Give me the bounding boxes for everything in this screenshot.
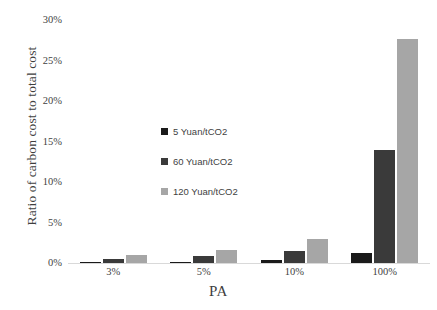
x-axis-tick-10: 10% — [249, 266, 340, 278]
legend-swatch-icon — [161, 128, 168, 135]
legend-label: 5 Yuan/tCO2 — [173, 126, 227, 137]
x-axis-tick-5: 5% — [159, 266, 250, 278]
bar[interactable] — [193, 256, 214, 263]
bar[interactable] — [397, 39, 418, 263]
bar[interactable] — [216, 250, 237, 263]
y-axis-tick-15: 15% — [30, 137, 62, 147]
y-axis-tick-labels: 0%5%10%15%20%25%30% — [30, 0, 62, 310]
y-axis-tick-25: 25% — [30, 56, 62, 66]
legend-entry-2[interactable]: 60 Yuan/tCO2 — [161, 150, 291, 172]
bar-chart: Ratio of carbon cost to total cost 0%5%1… — [0, 0, 437, 310]
legend-swatch-icon — [161, 188, 168, 195]
x-axis-tick-labels: 3%5%10%100% — [68, 266, 430, 282]
x-axis-tick-3: 3% — [68, 266, 159, 278]
x-axis-tick-100: 100% — [340, 266, 431, 278]
y-axis-tick-30: 30% — [30, 15, 62, 25]
legend-label: 60 Yuan/tCO2 — [173, 156, 233, 167]
bar[interactable] — [307, 239, 328, 263]
bar[interactable] — [284, 251, 305, 263]
bar[interactable] — [351, 253, 372, 263]
legend-label: 120 Yuan/tCO2 — [173, 186, 238, 197]
y-axis-tick-10: 10% — [30, 177, 62, 187]
bar[interactable] — [374, 150, 395, 263]
bar[interactable] — [126, 255, 147, 263]
y-axis-tick-0: 0% — [30, 258, 62, 268]
bar-group-3 — [80, 20, 147, 263]
legend-entry-1[interactable]: 5 Yuan/tCO2 — [161, 120, 291, 142]
bar-group-100 — [351, 20, 418, 263]
legend-swatch-icon — [161, 158, 168, 165]
legend-entry-3[interactable]: 120 Yuan/tCO2 — [161, 180, 291, 202]
x-axis-line — [68, 263, 430, 264]
x-axis-title: PA — [0, 283, 437, 300]
y-axis-tick-5: 5% — [30, 218, 62, 228]
y-axis-tick-20: 20% — [30, 96, 62, 106]
chart-legend: 5 Yuan/tCO260 Yuan/tCO2120 Yuan/tCO2 — [161, 120, 291, 210]
